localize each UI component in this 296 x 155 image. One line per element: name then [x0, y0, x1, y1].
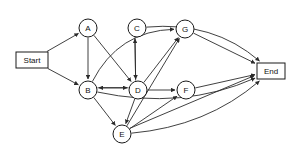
node-c[interactable]: C: [128, 19, 146, 37]
edge-f-to-end: [195, 75, 255, 88]
diagram-canvas: StartACGBDFEEnd: [0, 0, 296, 155]
directed-graph: StartACGBDFEEnd: [0, 0, 296, 155]
edge-b-to-g: [92, 29, 174, 81]
edge-c-to-end: [146, 26, 259, 61]
node-start[interactable]: Start: [16, 52, 48, 68]
node-start-shape: [16, 52, 48, 68]
node-end-shape: [257, 63, 285, 79]
node-e-shape: [113, 125, 131, 143]
node-a-shape: [79, 19, 97, 37]
node-c-shape: [128, 19, 146, 37]
edge-b-to-end: [97, 78, 255, 99]
node-f-shape: [177, 81, 195, 99]
node-d-shape: [129, 81, 147, 99]
node-e[interactable]: E: [113, 125, 131, 143]
edge-start-to-b: [48, 69, 78, 85]
node-end[interactable]: End: [257, 63, 285, 79]
edge-g-to-end: [194, 33, 255, 63]
edge-start-to-a: [47, 33, 79, 51]
edge-layer: [47, 26, 260, 133]
node-g-shape: [176, 20, 194, 38]
edge-b-to-e: [94, 98, 115, 126]
edge-c-to-d: [135, 38, 136, 80]
node-b-shape: [79, 81, 97, 99]
edge-d-to-g: [144, 38, 178, 83]
node-g[interactable]: G: [176, 20, 194, 38]
node-layer: StartACGBDFEEnd: [16, 19, 285, 143]
node-a[interactable]: A: [79, 19, 97, 37]
edge-e-to-f: [130, 96, 177, 128]
node-b[interactable]: B: [79, 81, 97, 99]
node-d[interactable]: D: [129, 81, 147, 99]
edge-a-to-d: [94, 35, 131, 81]
node-f[interactable]: F: [177, 81, 195, 99]
